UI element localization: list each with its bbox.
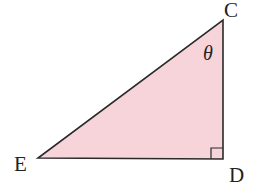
vertex-label-c: C	[224, 0, 238, 22]
triangle-ced	[38, 20, 223, 159]
vertex-label-d: D	[229, 163, 244, 187]
vertex-label-e: E	[14, 152, 27, 176]
triangle-diagram: C D E θ	[0, 0, 257, 191]
angle-label-theta: θ	[203, 42, 213, 64]
